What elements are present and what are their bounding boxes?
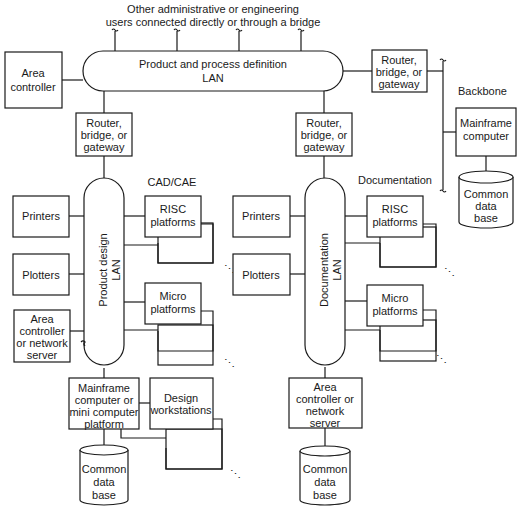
svg-text:Router,: Router,: [86, 117, 121, 129]
doc-router: Router, bridge, or gateway: [296, 113, 352, 156]
svg-text:bridge, or: bridge, or: [81, 129, 128, 141]
ellipsis-icon: ⋱: [224, 357, 235, 369]
doc-printers: Printers: [233, 196, 290, 237]
cad-mainframe: Mainframe computer or mini computer plat…: [69, 378, 139, 430]
doc-risc-platforms: RISC platforms: [367, 196, 436, 267]
svg-text:data: data: [314, 476, 336, 488]
svg-text:Common: Common: [303, 463, 348, 475]
svg-text:computer or: computer or: [75, 394, 134, 406]
svg-text:LAN: LAN: [331, 259, 343, 280]
cad-printers: Printers: [13, 196, 69, 237]
svg-text:platforms: platforms: [372, 305, 418, 317]
svg-text:platforms: platforms: [372, 216, 418, 228]
cad-plotters: Plotters: [13, 254, 69, 295]
svg-text:Printers: Printers: [242, 210, 280, 222]
svg-text:server: server: [27, 349, 58, 361]
svg-text:gateway: gateway: [379, 78, 420, 90]
cad-router: Router, bridge, or gateway: [76, 113, 132, 156]
svg-text:controller or: controller or: [296, 393, 354, 405]
router-right: Router, bridge, or gateway: [372, 50, 427, 92]
documentation-lan: Documentation LAN: [305, 178, 345, 365]
svg-text:Product design: Product design: [97, 233, 109, 306]
user-drop-lines: [112, 29, 304, 51]
svg-text:platforms: platforms: [150, 216, 196, 228]
svg-text:mini computer: mini computer: [69, 406, 138, 418]
svg-text:platforms: platforms: [150, 303, 196, 315]
svg-text:gateway: gateway: [304, 141, 345, 153]
svg-text:Router,: Router,: [306, 117, 341, 129]
svg-text:platform: platform: [84, 418, 124, 430]
doc-micro-platforms: Micro platforms: [367, 285, 436, 361]
svg-text:bridge, or: bridge, or: [376, 66, 423, 78]
svg-text:Common: Common: [464, 188, 509, 200]
product-design-lan: Product design LAN: [81, 178, 124, 365]
svg-text:base: base: [474, 212, 498, 224]
svg-text:LAN: LAN: [110, 259, 122, 280]
svg-text:Printers: Printers: [22, 210, 60, 222]
svg-text:Area: Area: [313, 381, 337, 393]
svg-text:Micro: Micro: [160, 290, 187, 302]
svg-text:controller: controller: [19, 325, 65, 337]
svg-text:controller: controller: [10, 81, 56, 93]
doc-database: Common data base: [300, 446, 350, 505]
network-diagram: Other administrative or engineering user…: [0, 0, 518, 513]
svg-text:Common: Common: [82, 463, 127, 475]
ellipsis-icon: ⋱: [230, 468, 241, 480]
svg-text:Mainframe: Mainframe: [78, 382, 130, 394]
cad-area-controller: Area controller or network server: [14, 310, 70, 362]
svg-text:RISC: RISC: [160, 203, 186, 215]
doc-plotters: Plotters: [233, 254, 290, 295]
svg-text:computer: computer: [463, 130, 509, 142]
database-backbone: Common data base: [459, 171, 513, 228]
svg-text:Plotters: Plotters: [242, 269, 280, 281]
svg-text:Design: Design: [164, 392, 198, 404]
mainframe-computer-backbone: Mainframe computer: [456, 108, 516, 156]
svg-text:data: data: [93, 476, 115, 488]
svg-text:Area: Area: [30, 313, 54, 325]
svg-text:network: network: [306, 405, 345, 417]
top-lan-line1: Product and process definition: [139, 58, 287, 70]
doc-area-controller: Area controller or network server: [289, 378, 362, 429]
cad-cae-title: CAD/CAE: [148, 176, 197, 188]
ellipsis-icon: ⋱: [444, 266, 455, 278]
top-lan-line2: LAN: [202, 72, 223, 84]
svg-text:Plotters: Plotters: [22, 269, 60, 281]
svg-text:Router,: Router,: [381, 54, 416, 66]
top-note-line1: Other administrative or engineering: [127, 3, 299, 15]
svg-text:Micro: Micro: [382, 292, 409, 304]
backbone-label: Backbone: [458, 85, 507, 97]
ellipsis-icon: ⋱: [436, 353, 447, 365]
cad-risc-platforms: RISC platforms: [145, 196, 213, 263]
svg-text:base: base: [313, 489, 337, 501]
svg-text:RISC: RISC: [382, 203, 408, 215]
top-note-line2: users connected directly or through a br…: [106, 16, 321, 28]
documentation-title: Documentation: [358, 174, 432, 186]
svg-text:or network: or network: [16, 337, 68, 349]
svg-text:bridge, or: bridge, or: [301, 129, 348, 141]
svg-text:Mainframe: Mainframe: [460, 117, 512, 129]
svg-text:workstations: workstations: [149, 404, 212, 416]
svg-text:data: data: [475, 200, 497, 212]
area-controller-top: Area controller: [5, 52, 62, 108]
svg-text:gateway: gateway: [84, 141, 125, 153]
svg-text:server: server: [310, 417, 341, 429]
design-workstations: Design workstations: [149, 378, 222, 469]
svg-text:base: base: [92, 489, 116, 501]
svg-text:Area: Area: [21, 67, 45, 79]
svg-text:Documentation: Documentation: [318, 233, 330, 307]
cad-micro-platforms: Micro platforms: [145, 283, 213, 365]
product-process-lan: Product and process definition LAN: [83, 51, 343, 91]
cad-database: Common data base: [80, 445, 128, 505]
